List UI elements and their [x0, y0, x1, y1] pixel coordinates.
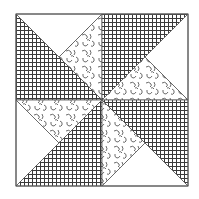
quilt-pieces — [16, 14, 188, 186]
quilt-block — [0, 0, 199, 199]
